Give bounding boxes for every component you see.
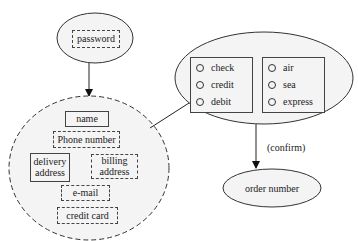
radio-button-icon[interactable] bbox=[196, 81, 204, 89]
radio-label: sea bbox=[283, 79, 296, 90]
order-number-label: order number bbox=[223, 183, 321, 194]
radio-button-icon[interactable] bbox=[196, 98, 204, 106]
delivery-address-label-line2: address bbox=[30, 167, 70, 178]
radio-option-sea[interactable]: sea bbox=[268, 79, 296, 90]
radio-option-credit[interactable]: credit bbox=[196, 79, 234, 90]
radio-button-icon[interactable] bbox=[268, 98, 276, 106]
confirm-edge-label: (confirm) bbox=[267, 142, 305, 153]
radio-option-express[interactable]: express bbox=[268, 96, 313, 107]
name-label: name bbox=[65, 113, 109, 124]
radio-button-icon[interactable] bbox=[268, 81, 276, 89]
diagram-canvas bbox=[0, 0, 358, 241]
billing-address-label-line1: billing bbox=[91, 155, 138, 166]
radio-option-debit[interactable]: debit bbox=[196, 96, 231, 107]
password-label: password bbox=[72, 33, 120, 44]
credit-card-label: credit card bbox=[57, 210, 118, 221]
billing-address-label-line2: address bbox=[91, 166, 138, 177]
radio-option-air[interactable]: air bbox=[268, 62, 294, 73]
radio-button-icon[interactable] bbox=[196, 64, 204, 72]
radio-label: check bbox=[211, 62, 234, 73]
phone-number-label: Phone number bbox=[53, 134, 120, 145]
radio-label: debit bbox=[211, 96, 231, 107]
radio-label: express bbox=[283, 96, 313, 107]
delivery-address-label-line1: delivery bbox=[30, 156, 70, 167]
email-label: e-mail bbox=[61, 187, 110, 198]
radio-option-check[interactable]: check bbox=[196, 62, 234, 73]
radio-label: air bbox=[283, 62, 294, 73]
radio-label: credit bbox=[211, 79, 234, 90]
radio-button-icon[interactable] bbox=[268, 64, 276, 72]
